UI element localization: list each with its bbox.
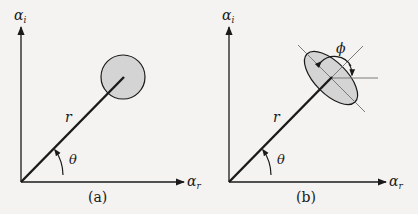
phi-arc-end-icon bbox=[349, 64, 352, 75]
x-axis-label: αr bbox=[187, 173, 201, 191]
diagram-canvas: αi αr r θ (a) αi αr r θ ϕ (b) bbox=[0, 0, 418, 214]
y-axis-label: αi bbox=[14, 7, 26, 25]
panel-a: αi αr r θ (a) bbox=[14, 7, 201, 205]
x-axis-label: αr bbox=[389, 173, 403, 191]
radius-label: r bbox=[65, 109, 73, 125]
angle-label: θ bbox=[277, 152, 285, 167]
orientation-label: ϕ bbox=[336, 40, 346, 56]
panel-b: αi αr r θ ϕ (b) bbox=[222, 7, 403, 205]
panel-caption: (a) bbox=[88, 189, 107, 205]
theta-arc-icon bbox=[55, 150, 63, 175]
panel-caption: (b) bbox=[296, 189, 316, 205]
radius-label: r bbox=[273, 109, 281, 125]
theta-arc-icon bbox=[263, 150, 271, 175]
angle-label: θ bbox=[69, 152, 77, 167]
y-axis-label: αi bbox=[222, 7, 234, 25]
